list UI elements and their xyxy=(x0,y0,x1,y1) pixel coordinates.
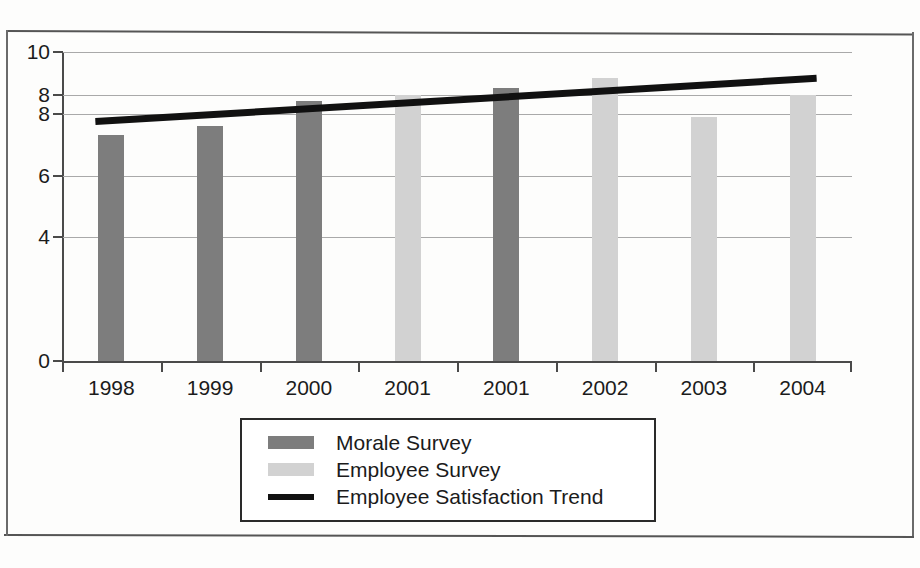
x-axis-tick xyxy=(260,361,262,372)
legend-item[interactable]: Employee Survey xyxy=(242,456,654,483)
y-axis-tick-label: 10 xyxy=(27,40,50,64)
x-axis-tick xyxy=(850,361,852,372)
x-axis-tick xyxy=(753,361,755,372)
legend-item-label: Employee Survey xyxy=(336,458,501,482)
x-axis-category-label: 2004 xyxy=(779,376,826,400)
x-axis-tick xyxy=(161,361,163,372)
x-axis-category-label: 2001 xyxy=(483,376,530,400)
x-axis-category-label: 2003 xyxy=(681,376,728,400)
x-axis-tick xyxy=(556,361,558,372)
trend-line-svg xyxy=(62,52,852,363)
legend-item-label: Employee Satisfaction Trend xyxy=(336,485,603,509)
x-axis-category-label: 1999 xyxy=(187,376,234,400)
y-axis-tick-label: 8 xyxy=(38,102,50,126)
x-axis-tick xyxy=(62,361,64,372)
x-axis-category-label: 1998 xyxy=(88,376,135,400)
x-axis-category-label: 2001 xyxy=(384,376,431,400)
page-rule-bottom xyxy=(4,534,914,538)
y-axis-tick-label: 6 xyxy=(38,164,50,188)
page-rule-top xyxy=(6,30,914,35)
chart-legend: Morale SurveyEmployee SurveyEmployee Sat… xyxy=(240,418,656,522)
legend-item[interactable]: Morale Survey xyxy=(242,429,654,456)
plot-area: 1088640 19981999200020012001200220032004 xyxy=(62,52,852,362)
y-axis-tick-label: 4 xyxy=(38,225,50,249)
legend-light-swatch-icon xyxy=(268,463,314,476)
legend-item-label: Morale Survey xyxy=(336,431,471,455)
x-axis-category-label: 2002 xyxy=(582,376,629,400)
employee-satisfaction-trend-line xyxy=(95,78,816,121)
y-axis-tick-label: 0 xyxy=(38,349,50,373)
figure-frame-left xyxy=(6,30,8,536)
legend-black-line-icon xyxy=(268,494,314,500)
x-axis-category-label: 2000 xyxy=(286,376,333,400)
legend-dark-swatch-icon xyxy=(268,436,314,449)
x-axis-tick xyxy=(358,361,360,372)
legend-item[interactable]: Employee Satisfaction Trend xyxy=(242,483,654,510)
chart-page: 1088640 19981999200020012001200220032004… xyxy=(0,0,920,568)
x-axis-tick xyxy=(457,361,459,372)
x-axis-tick xyxy=(655,361,657,372)
figure-frame-right xyxy=(912,32,914,536)
